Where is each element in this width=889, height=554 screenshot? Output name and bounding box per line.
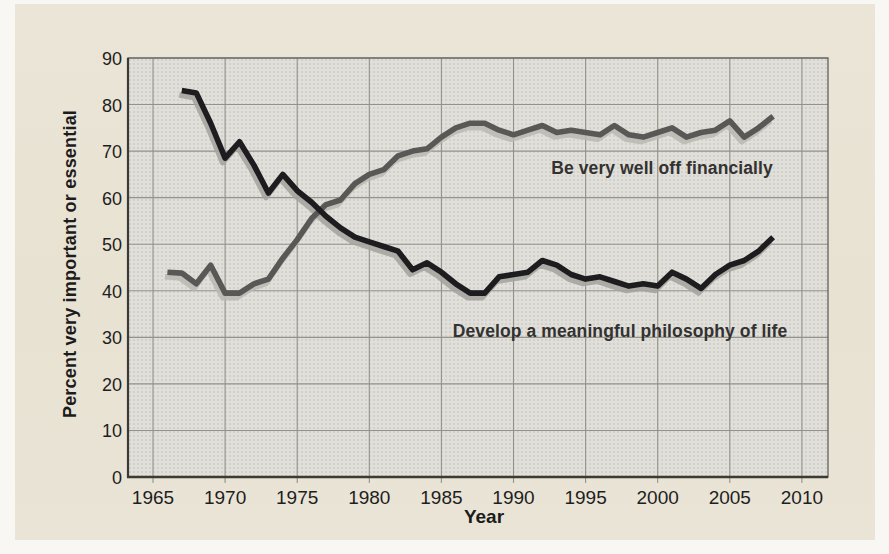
series-shadow [165,121,771,298]
series-label-philosophy: Develop a meaningful philosophy of life [453,321,788,342]
chart-plot-svg [0,0,889,554]
x-tick-label: 1990 [492,488,534,507]
y-tick-label: 50 [74,236,122,254]
y-tick-label: 10 [74,422,122,440]
x-tick-label: 1965 [132,488,174,507]
y-tick-label: 90 [74,50,122,68]
x-tick-label: 1980 [348,488,390,507]
x-axis-title: Year [464,506,504,528]
x-tick-label: 2000 [637,488,679,507]
y-tick-label: 20 [74,376,122,394]
x-tick-label: 2010 [781,488,823,507]
line-chart-figure: Percent very important or essential Year… [0,0,889,554]
y-tick-label: 40 [74,283,122,301]
x-tick-label: 1985 [420,488,462,507]
y-tick-label: 70 [74,143,122,161]
page: Percent very important or essential Year… [0,0,889,554]
x-tick-label: 1995 [564,488,606,507]
series-label-financial: Be very well off financially [551,158,773,179]
x-tick-label: 1975 [276,488,318,507]
y-tick-label: 60 [74,190,122,208]
y-tick-label: 80 [74,97,122,115]
y-tick-label: 30 [74,329,122,347]
x-tick-label: 1970 [204,488,246,507]
y-tick-label: 0 [74,469,122,487]
x-tick-label: 2005 [709,488,751,507]
